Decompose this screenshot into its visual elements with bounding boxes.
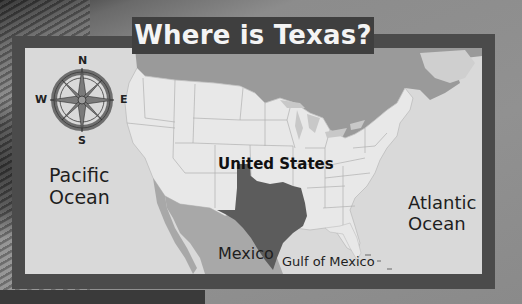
compass-west-label: W xyxy=(35,93,47,106)
compass-south-label: S xyxy=(78,134,86,147)
title-bar-extension xyxy=(374,34,495,48)
label-pacific-ocean: Pacific Ocean xyxy=(49,164,110,208)
compass-rose: N S W E xyxy=(32,50,132,150)
compass-east-label: E xyxy=(120,93,128,106)
label-atlantic-ocean: Atlantic Ocean xyxy=(408,192,476,234)
background-strip xyxy=(0,290,205,304)
label-united-states: United States xyxy=(218,155,334,173)
label-gulf-of-mexico: Gulf of Mexico xyxy=(282,254,375,269)
compass-north-label: N xyxy=(78,54,87,67)
page-title: Where is Texas? xyxy=(132,17,374,54)
title-tab: Where is Texas? xyxy=(132,17,374,54)
label-mexico: Mexico xyxy=(218,244,274,263)
